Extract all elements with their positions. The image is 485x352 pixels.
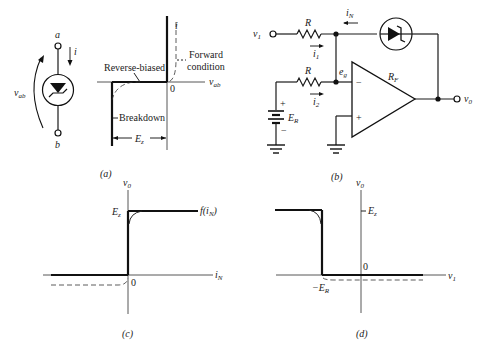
forward-label-1: Forward [189, 49, 223, 60]
c-ez-label: Ez [111, 206, 121, 219]
c-real-lower [51, 278, 128, 285]
c-x-label: iN [215, 269, 223, 282]
panel-b-circuit: v1 R iN i1 R [253, 7, 472, 153]
panel-c-graph: v0 iN Ez f(iN) 0 [43, 177, 223, 314]
i2-label: i2 [313, 96, 320, 109]
current-arrow-icon [68, 47, 73, 66]
r1-label: R [304, 17, 311, 28]
terminal-a-label: a [55, 29, 60, 40]
d-real-lower [323, 278, 423, 280]
opamp-minus: − [356, 77, 362, 88]
voltage-label: vab [14, 87, 26, 100]
c-y-label: v0 [123, 177, 131, 190]
reverse-biased-label: Reverse-biased [104, 62, 165, 73]
d-er-label: −ER [312, 282, 330, 295]
d-y-label: v0 [356, 177, 364, 190]
x-axis-label: vab [209, 76, 221, 89]
input-terminal [270, 31, 276, 37]
op-amp-icon [352, 62, 415, 137]
battery-label: ER [287, 112, 299, 125]
input-label: v1 [253, 28, 261, 41]
battery-icon [268, 111, 284, 123]
zener-limiter-figure: a b i vab i Forward co [0, 0, 485, 352]
terminal-b [55, 130, 61, 136]
breakdown-label: Breakdown [119, 112, 165, 123]
junction-output [435, 96, 440, 101]
rf-label: RF [387, 71, 399, 84]
panel-a-graph: i Forward condition Reverse-biased Break… [97, 16, 225, 150]
d-origin-label: 0 [363, 261, 368, 272]
ground-icon-opamp [327, 145, 345, 153]
forward-real-curve [168, 22, 176, 82]
caption-b: (b) [331, 171, 343, 183]
c-real-upper [129, 211, 142, 224]
r2-label: R [304, 65, 311, 76]
c-curve-label: f(iN) [200, 205, 218, 218]
battery-plus: + [280, 98, 286, 109]
junction-eg [333, 79, 338, 84]
output-label: v0 [464, 93, 472, 106]
panel-a-symbol: a b i vab [14, 29, 77, 150]
d-x-label: v1 [448, 270, 456, 283]
ground-icon-battery [267, 145, 285, 153]
i1-label: i1 [313, 48, 319, 61]
current-label: i [74, 46, 77, 57]
battery-minus: − [281, 125, 287, 136]
caption-d: (d) [356, 328, 368, 340]
origin-label: 0 [170, 83, 175, 94]
zener-diode-icon [43, 75, 74, 106]
eg-label: eg [339, 66, 347, 79]
caption-a: (a) [100, 168, 112, 180]
panel-d-graph: v0 v1 Ez −ER 0 [275, 177, 456, 313]
resistor-r1-icon [297, 30, 321, 38]
ez-label: Ez [134, 133, 144, 146]
forward-label-2: condition [187, 61, 225, 72]
resistor-r2-icon [297, 78, 321, 86]
feedback-zener-icon [380, 18, 412, 50]
breakdown-real-curve [112, 82, 140, 100]
in-arrow-icon [343, 21, 358, 25]
opamp-plus: + [356, 112, 362, 123]
output-terminal [454, 96, 460, 102]
caption-c: (c) [122, 328, 134, 340]
terminal-b-label: b [55, 139, 60, 150]
c-origin-label: 0 [131, 277, 136, 288]
d-real-upper [309, 210, 321, 224]
reverse-leader [134, 73, 140, 82]
in-label: iN [346, 7, 354, 20]
terminal-a [55, 43, 61, 49]
graph-current-label: i [175, 20, 178, 31]
d-ez-label: Ez [367, 205, 377, 218]
